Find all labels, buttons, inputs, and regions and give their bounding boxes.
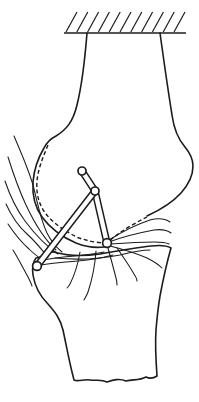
fibre-down-1 [108,248,117,285]
diagram-canvas [0,0,199,402]
fibre-right-3 [110,242,169,244]
fibre-right-2 [109,230,171,242]
pin-D-tibial [103,239,112,248]
pin-A-femoral [78,167,86,175]
rod-posterior-cruciate-body [95,191,107,243]
hatch-stroke [98,12,109,32]
tibia-outline [33,245,171,382]
fibre-down-3 [67,252,80,288]
femur-right-edge [147,33,193,216]
hatch-stroke [109,12,120,32]
hatch-stroke [163,12,174,32]
fibre-c-2 [41,255,113,265]
hatch-strokes [66,12,185,32]
femur-outline [33,33,193,247]
hatch-stroke [66,12,77,32]
hatch-stroke [174,12,185,32]
fibre-left-6 [13,250,32,286]
femur-left-edge [33,33,104,247]
tibia-body [33,245,171,382]
hatch-stroke [142,12,153,32]
fixed-support [64,12,186,33]
hatch-stroke [152,12,163,32]
hatch-stroke [88,12,99,32]
pin-B-femoral [91,187,99,195]
fibre-left-5 [8,224,41,259]
pin-C-tibial [33,262,42,271]
rod-posterior-cruciate [95,191,107,243]
hatch-stroke [120,12,131,32]
knee-linkage-diagram [0,0,199,402]
hatch-stroke [131,12,142,32]
hatch-stroke [77,12,88,32]
